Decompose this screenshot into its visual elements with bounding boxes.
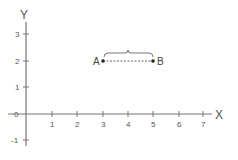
y-tick-label-1: 1 xyxy=(15,83,20,92)
y-tick-label-3: 3 xyxy=(15,30,20,39)
x-tick-label-4: 4 xyxy=(126,120,131,129)
x-tick-label-1: 1 xyxy=(50,120,55,129)
y-tick-label-neg1: -1 xyxy=(11,136,19,145)
point-a xyxy=(101,59,105,63)
brace xyxy=(104,50,153,57)
point-a-label: A xyxy=(93,56,100,67)
origin-label: 0 xyxy=(14,110,19,119)
x-tick-label-5: 5 xyxy=(151,120,156,129)
y-tick-label-2: 2 xyxy=(15,57,20,66)
x-axis-label: X xyxy=(215,108,223,122)
x-tick-label-3: 3 xyxy=(101,120,106,129)
point-b xyxy=(151,59,155,63)
x-tick-label-2: 2 xyxy=(75,120,80,129)
point-b-label: B xyxy=(157,56,164,67)
y-axis-label: Y xyxy=(20,8,28,22)
coordinate-plane: Y X 3 2 1 0 -1 1 2 3 4 5 6 7 A B xyxy=(0,0,238,160)
x-tick-label-7: 7 xyxy=(201,120,206,129)
x-tick-label-6: 6 xyxy=(177,120,182,129)
